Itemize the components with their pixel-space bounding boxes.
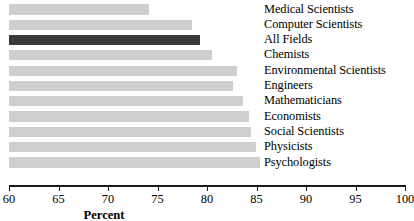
bar-category-label: Social Scientists bbox=[264, 124, 344, 139]
bar-row: Computer Scientists bbox=[0, 17, 414, 32]
x-axis-tick bbox=[158, 185, 159, 191]
bar bbox=[9, 20, 192, 30]
x-axis-title: Percent bbox=[0, 208, 414, 221]
x-axis-tick-label: 90 bbox=[300, 192, 312, 207]
x-axis-tick-label: 80 bbox=[201, 192, 213, 207]
bar-category-label: Psychologists bbox=[264, 155, 331, 170]
bar-category-label: Engineers bbox=[264, 78, 313, 93]
bar-category-label: Medical Scientists bbox=[264, 2, 353, 17]
bar bbox=[9, 4, 149, 14]
bar-category-label: Economists bbox=[264, 109, 321, 124]
bar bbox=[9, 35, 200, 45]
bar-category-label: All Fields bbox=[264, 32, 312, 47]
bar-row: Psychologists bbox=[0, 155, 414, 170]
bar bbox=[9, 66, 237, 76]
x-axis-tick-label: 65 bbox=[52, 192, 64, 207]
bar bbox=[9, 111, 249, 121]
bar bbox=[9, 157, 260, 167]
x-axis-tick bbox=[257, 185, 258, 191]
bar-category-label: Chemists bbox=[264, 47, 309, 62]
x-axis-tick-label: 95 bbox=[349, 192, 361, 207]
bar-row: Economists bbox=[0, 109, 414, 124]
bar-row: Physicists bbox=[0, 140, 414, 155]
bar bbox=[9, 142, 256, 152]
bar-category-label: Mathematicians bbox=[264, 93, 342, 108]
plot-area: Medical ScientistsComputer ScientistsAll… bbox=[0, 0, 414, 180]
bar bbox=[9, 50, 212, 60]
x-axis-tick-label: 100 bbox=[396, 192, 414, 207]
x-axis-tick bbox=[306, 185, 307, 191]
x-axis-tick bbox=[356, 185, 357, 191]
bar-row: Chemists bbox=[0, 48, 414, 63]
x-axis-title-label: Percent bbox=[83, 208, 124, 221]
bar-category-label: Computer Scientists bbox=[264, 17, 362, 32]
bar-category-label: Physicists bbox=[264, 139, 313, 154]
x-axis: 6065707580859095100 Percent bbox=[0, 180, 414, 221]
bar-row: Engineers bbox=[0, 79, 414, 94]
x-axis-tick bbox=[108, 185, 109, 191]
x-axis-tick bbox=[59, 185, 60, 191]
x-axis-tick-label: 85 bbox=[250, 192, 262, 207]
bar-category-label: Environmental Scientists bbox=[264, 63, 386, 78]
bar bbox=[9, 96, 243, 106]
bar-chart: Medical ScientistsComputer ScientistsAll… bbox=[0, 0, 414, 221]
x-axis-tick-label: 75 bbox=[151, 192, 163, 207]
bar-row: Social Scientists bbox=[0, 124, 414, 139]
x-axis-tick bbox=[9, 185, 10, 191]
bar bbox=[9, 127, 251, 137]
bar-row: Environmental Scientists bbox=[0, 63, 414, 78]
bar-row: All Fields bbox=[0, 33, 414, 48]
x-axis-tick bbox=[207, 185, 208, 191]
bar-row: Mathematicians bbox=[0, 94, 414, 109]
x-axis-tick-label: 70 bbox=[102, 192, 114, 207]
x-axis-tick bbox=[405, 185, 406, 191]
bar bbox=[9, 81, 233, 91]
bar-row: Medical Scientists bbox=[0, 2, 414, 17]
x-axis-tick-label: 60 bbox=[3, 192, 15, 207]
